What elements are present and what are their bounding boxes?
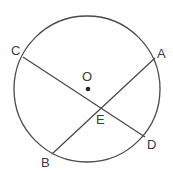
- circle-chords-diagram: C A O E B D: [0, 0, 173, 172]
- label-c: C: [11, 43, 20, 58]
- label-d: D: [147, 137, 156, 152]
- label-e: E: [96, 112, 105, 127]
- label-b: B: [41, 155, 50, 170]
- label-a: A: [157, 46, 166, 61]
- label-o: O: [82, 69, 92, 84]
- center-point-o: [86, 87, 91, 92]
